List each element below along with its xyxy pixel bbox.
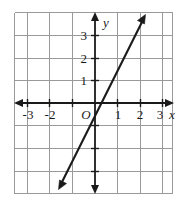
x-tick-label-2: 2 xyxy=(137,107,144,122)
y-axis-label: y xyxy=(101,15,109,30)
x-tick-label-neg2: -2 xyxy=(45,107,56,122)
coordinate-plane-figure: -3 -2 1 2 3 3 2 1 O x y xyxy=(0,0,183,198)
origin-label: O xyxy=(81,107,91,122)
x-tick-label-3: 3 xyxy=(157,107,164,122)
y-tick-label-3: 3 xyxy=(81,28,88,43)
y-tick-label-1: 1 xyxy=(81,73,88,88)
y-tick-label-2: 2 xyxy=(81,51,88,66)
x-tick-label-1: 1 xyxy=(115,107,122,122)
x-tick-label-neg3: -3 xyxy=(23,107,34,122)
x-axis-label: x xyxy=(168,107,175,122)
graph-svg: -3 -2 1 2 3 3 2 1 O x y xyxy=(0,0,183,198)
